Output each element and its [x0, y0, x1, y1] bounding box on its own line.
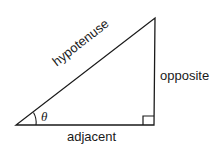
opposite-label: opposite	[160, 69, 209, 82]
right-angle-marker	[143, 116, 154, 125]
angle-arc	[34, 113, 37, 126]
theta-label: θ	[41, 110, 47, 123]
adjacent-label: adjacent	[67, 130, 116, 143]
